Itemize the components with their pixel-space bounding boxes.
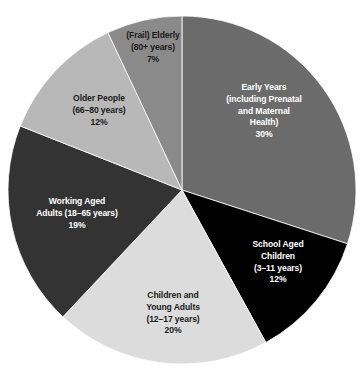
pie-chart-svg: Early Years(including Prenataland Matern…: [0, 0, 364, 376]
pie-chart: Early Years(including Prenataland Matern…: [0, 0, 364, 376]
